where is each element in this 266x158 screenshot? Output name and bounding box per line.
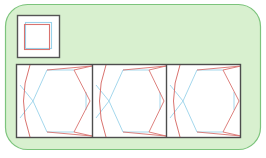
screenshot-canvas: [0, 0, 266, 158]
thumbnail-box-frame: [18, 16, 60, 58]
figure-svg: [0, 0, 266, 158]
panel-background: [17, 65, 241, 138]
thumbnail-square-box[interactable]: [18, 16, 60, 58]
three-cell-panel[interactable]: [17, 65, 242, 138]
